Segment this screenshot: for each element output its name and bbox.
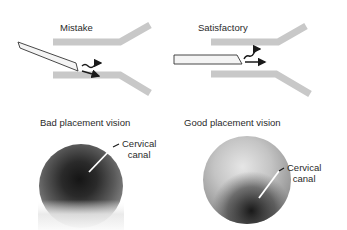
wavy-arrow-icon [244,49,260,59]
bad-placement-title: Bad placement vision [40,117,130,128]
hysteroscope-aligned [174,55,242,64]
bad-placement-view [38,144,124,230]
lower-canal-wall [211,74,310,94]
mistake-panel [18,25,150,93]
cervical-canal-annotation-bad: Cervical canal [122,138,156,160]
mistake-title: Mistake [60,22,93,33]
good-placement-view [203,136,291,224]
hysteroscope-tilted [18,42,78,71]
satisfactory-panel [174,26,310,94]
good-placement-title: Good placement vision [184,117,281,128]
satisfactory-title: Satisfactory [198,22,248,33]
diagram-canvas [0,0,347,230]
lower-canal-wall [53,75,150,93]
wavy-arrow-icon [82,63,101,68]
cervical-canal-annotation-good: Cervical canal [287,162,321,184]
